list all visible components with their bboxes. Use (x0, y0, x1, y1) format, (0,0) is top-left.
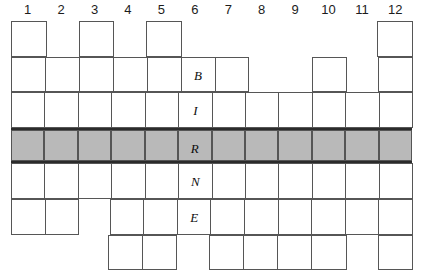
grid-row-5: N (11, 163, 412, 199)
grid-cell-r6c5[interactable] (143, 199, 178, 235)
keyword-letter-B: B (182, 58, 215, 94)
column-header-7: 7 (212, 0, 245, 20)
grid-cell-r2c6[interactable]: B (181, 57, 216, 93)
grid-cell-r3c3[interactable] (78, 92, 112, 128)
grid-cell-r6c11[interactable] (345, 199, 380, 235)
grid-cell-r5c10[interactable] (312, 163, 346, 199)
grid-cell-r4c7[interactable] (212, 130, 245, 162)
column-header-1: 1 (11, 0, 44, 20)
grid-cell-r2c3[interactable] (79, 57, 114, 93)
grid-cell-r4c12[interactable] (379, 130, 412, 162)
grid-cell-r3c10[interactable] (312, 92, 346, 128)
grid-cell-r7c5[interactable] (142, 235, 177, 271)
grid-cell-r3c2[interactable] (44, 92, 78, 128)
grid-row-6: E (11, 199, 412, 235)
crossword-grid: BIRNE (11, 21, 412, 271)
grid-cell-r4c4[interactable] (111, 130, 144, 162)
column-header-10: 10 (312, 0, 345, 20)
grid-cell-r1c3[interactable] (79, 21, 115, 57)
grid-cell-r5c6[interactable]: N (178, 163, 212, 199)
grid-gap-r1c6 (181, 21, 215, 57)
grid-cell-r7c10[interactable] (311, 235, 346, 271)
grid-cell-r5c4[interactable] (111, 163, 145, 199)
grid-cell-r1c1[interactable] (11, 21, 47, 57)
column-header-11: 11 (345, 0, 378, 20)
grid-gap-r2c9 (280, 57, 313, 93)
grid-cell-r5c5[interactable] (145, 163, 179, 199)
grid-cell-r3c7[interactable] (212, 92, 246, 128)
grid-row-7 (11, 235, 412, 271)
grid-cell-r3c1[interactable] (11, 92, 45, 128)
grid-cell-r4c2[interactable] (44, 130, 77, 162)
grid-cell-r4c9[interactable] (278, 130, 311, 162)
grid-cell-r7c4[interactable] (108, 235, 143, 271)
grid-cell-r3c4[interactable] (111, 92, 145, 128)
column-header-4: 4 (111, 0, 144, 20)
grid-cell-r2c4[interactable] (113, 57, 148, 93)
grid-cell-r4c11[interactable] (345, 130, 378, 162)
grid-cell-r3c8[interactable] (245, 92, 279, 128)
grid-gap-r2c11 (346, 57, 379, 93)
column-header-12: 12 (379, 0, 412, 20)
grid-cell-r3c9[interactable] (278, 92, 312, 128)
grid-row-3: I (11, 92, 412, 128)
grid-cell-r2c1[interactable] (11, 57, 46, 93)
grid-cell-r4c3[interactable] (78, 130, 111, 162)
grid-gap-r7c11 (346, 235, 379, 271)
keyword-letter-N: N (179, 164, 211, 200)
grid-cell-r2c5[interactable] (147, 57, 182, 93)
grid-cell-r3c5[interactable] (145, 92, 179, 128)
column-header-5: 5 (145, 0, 178, 20)
grid-cell-r7c12[interactable] (378, 235, 413, 271)
grid-gap-r7c1 (11, 235, 44, 271)
grid-cell-r2c7[interactable] (215, 57, 250, 93)
grid-row-4: R (11, 128, 412, 164)
grid-cell-r2c2[interactable] (45, 57, 80, 93)
grid-cell-r5c3[interactable] (78, 163, 112, 199)
grid-cell-r1c5[interactable] (146, 21, 182, 57)
grid-cell-r2c10[interactable] (312, 57, 347, 93)
grid-cell-r3c11[interactable] (345, 92, 379, 128)
grid-cell-r5c12[interactable] (379, 163, 413, 199)
grid-cell-r4c5[interactable] (145, 130, 178, 162)
grid-cell-r5c8[interactable] (245, 163, 279, 199)
grid-gap-r1c4 (113, 21, 147, 57)
grid-gap-r1c7 (214, 21, 248, 57)
grid-cell-r6c12[interactable] (378, 199, 413, 235)
grid-cell-r6c10[interactable] (311, 199, 346, 235)
grid-cell-r5c11[interactable] (345, 163, 379, 199)
grid-cell-r7c9[interactable] (277, 235, 312, 271)
grid-gap-r7c6 (176, 235, 209, 271)
grid-cell-r4c6[interactable]: R (178, 130, 211, 162)
grid-gap-r7c2 (43, 235, 76, 271)
keyword-letter-E: E (178, 200, 211, 236)
grid-cell-r4c8[interactable] (245, 130, 278, 162)
grid-cell-r3c6[interactable]: I (178, 92, 212, 128)
keyword-letter-R: R (179, 131, 210, 167)
grid-gap-r1c10 (312, 21, 346, 57)
grid-cell-r6c6[interactable]: E (177, 199, 212, 235)
grid-cell-r6c4[interactable] (110, 199, 145, 235)
grid-cell-r7c8[interactable] (243, 235, 278, 271)
grid-cell-r7c7[interactable] (209, 235, 244, 271)
grid-cell-r2c12[interactable] (378, 57, 413, 93)
column-header-9: 9 (278, 0, 311, 20)
grid-cell-r4c1[interactable] (11, 130, 44, 162)
grid-cell-r4c10[interactable] (312, 130, 345, 162)
grid-cell-r3c12[interactable] (379, 92, 413, 128)
grid-cell-r5c1[interactable] (11, 163, 45, 199)
grid-cell-r6c8[interactable] (244, 199, 279, 235)
grid-cell-r5c9[interactable] (278, 163, 312, 199)
grid-row-2: B (11, 57, 412, 93)
grid-cell-r1c12[interactable] (377, 21, 413, 57)
grid-gap-r1c8 (246, 21, 280, 57)
grid-cell-r6c2[interactable] (45, 199, 80, 235)
grid-cell-r6c1[interactable] (11, 199, 46, 235)
grid-cell-r5c7[interactable] (212, 163, 246, 199)
grid-cell-r6c9[interactable] (278, 199, 313, 235)
grid-gap-r1c9 (279, 21, 313, 57)
grid-cell-r5c2[interactable] (44, 163, 78, 199)
column-header-2: 2 (44, 0, 77, 20)
grid-cell-r6c7[interactable] (210, 199, 245, 235)
grid-gap-r1c11 (345, 21, 379, 57)
